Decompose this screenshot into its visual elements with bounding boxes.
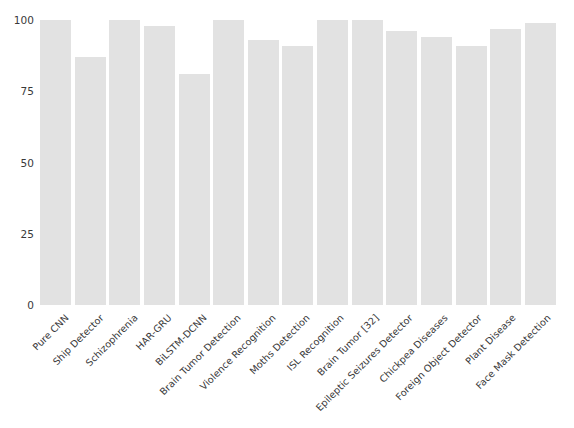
x-axis-tick-label: Brain Tumor [32] <box>315 312 381 378</box>
bar <box>248 40 279 305</box>
bar <box>75 57 106 305</box>
bar <box>179 74 210 305</box>
bar <box>40 20 71 305</box>
bar <box>144 26 175 305</box>
x-axis: Pure CNNShip DetectorSchizophreniaHAR-GR… <box>40 305 556 428</box>
bar <box>456 46 487 305</box>
bar <box>525 23 556 305</box>
bar-series <box>40 20 556 305</box>
bar <box>386 31 417 305</box>
y-axis-tick-label: 25 <box>20 228 34 240</box>
plot-area <box>40 20 556 305</box>
bar <box>109 20 140 305</box>
bar-chart-figure: 0255075100 Pure CNNShip DetectorSchizoph… <box>0 0 574 428</box>
bar <box>317 20 348 305</box>
bar <box>421 37 452 305</box>
y-axis-tick-label: 100 <box>14 14 34 26</box>
y-axis-tick-label: 75 <box>20 85 34 97</box>
bar <box>282 46 313 305</box>
y-axis-tick-label: 50 <box>20 157 34 169</box>
x-axis-tick-label: Moths Detection <box>247 312 311 376</box>
y-axis: 0255075100 <box>0 0 40 428</box>
bar <box>213 20 244 305</box>
bar <box>490 29 521 305</box>
bar <box>352 20 383 305</box>
y-axis-tick-label: 0 <box>27 299 34 311</box>
